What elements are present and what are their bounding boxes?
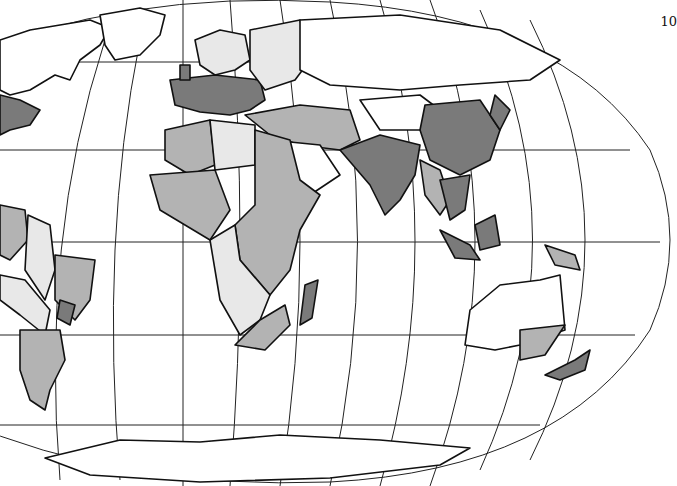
region-south-america [0, 205, 95, 410]
region-north-asia [250, 15, 560, 90]
region-antarctica [45, 435, 470, 482]
region-oceania [465, 275, 590, 380]
region-north-america [0, 8, 165, 135]
